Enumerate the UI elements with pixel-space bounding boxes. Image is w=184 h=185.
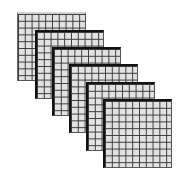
grid-6 — [103, 99, 172, 168]
